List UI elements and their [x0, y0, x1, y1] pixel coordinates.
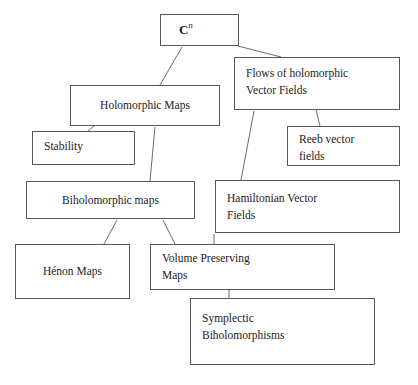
edge-bihol-to-henon [104, 220, 117, 244]
edge-flows-to-reeb [316, 110, 320, 126]
edge-holo-to-bihol [150, 127, 155, 181]
diagram-canvas: Cn Flows of holomorphic Vector Fields Ho… [0, 0, 418, 385]
node-flows-of-holomorphic-vector-fields[interactable]: Flows of holomorphic Vector Fields [234, 57, 400, 110]
node-hamiltonian-vector-fields[interactable]: Hamiltonian Vector Fields [215, 180, 400, 233]
node-holomorphic-maps[interactable]: Holomorphic Maps [70, 85, 220, 126]
node-volume-preserving-maps[interactable]: Volume Preserving Maps [150, 244, 335, 290]
edge-flows-to-hamil [241, 111, 254, 180]
edge-bihol-to-volume [163, 220, 175, 244]
node-stability[interactable]: Stability [32, 131, 135, 165]
node-cn-label: C [179, 21, 188, 40]
edge-cn-to-flows [238, 46, 281, 57]
node-henon-maps[interactable]: Hénon Maps [15, 244, 130, 299]
node-cn-superscript: n [188, 19, 192, 31]
node-reeb-vector-fields[interactable]: Reeb vector fields [287, 126, 400, 166]
node-biholomorphic-maps[interactable]: Biholomorphic maps [26, 181, 195, 219]
edge-cn-to-holo [160, 47, 182, 85]
node-cn[interactable]: Cn [160, 14, 239, 46]
node-symplectic-biholomorphisms[interactable]: Symplectic Biholomorphisms [190, 298, 375, 365]
